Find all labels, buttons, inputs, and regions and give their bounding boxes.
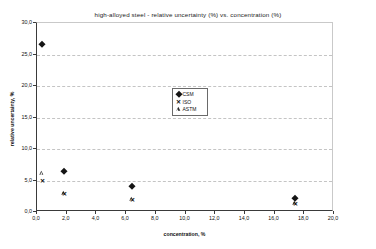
y-tick-label: 25,0 xyxy=(0,51,32,57)
chart-container: high-alloyed steel - relative uncertaint… xyxy=(0,0,376,249)
x-tick-label: 20,0 xyxy=(328,215,339,221)
x-tick-mark xyxy=(274,211,275,214)
x-tick-label: 10,0 xyxy=(179,215,190,221)
legend-label: CSM xyxy=(182,91,194,97)
x-axis-title: concentration, % xyxy=(36,231,333,237)
x-tick-mark xyxy=(333,211,334,214)
marker-cross-icon: ✕ xyxy=(130,197,135,203)
y-tick-label: 5,0 xyxy=(0,177,32,183)
y-tick-mark xyxy=(33,180,36,181)
marker-diamond-icon xyxy=(129,182,135,188)
x-tick-label: 2,0 xyxy=(62,215,70,221)
gridline xyxy=(37,118,332,119)
y-tick-mark xyxy=(33,117,36,118)
marker-diamond-icon xyxy=(39,41,45,47)
y-tick-label: 15,0 xyxy=(0,114,32,120)
x-tick-mark xyxy=(95,211,96,214)
marker-diamond-icon xyxy=(61,168,67,174)
y-tick-label: 10,0 xyxy=(0,145,32,151)
x-tick-mark xyxy=(185,211,186,214)
x-tick-label: 8,0 xyxy=(151,215,159,221)
marker-triangle-icon xyxy=(39,171,44,176)
legend-symbol: ✕ xyxy=(175,98,182,105)
plot-area: ✕✕✕✕ xyxy=(36,22,333,211)
x-tick-mark xyxy=(66,211,67,214)
chart-title: high-alloyed steel - relative uncertaint… xyxy=(0,11,376,18)
y-tick-mark xyxy=(33,54,36,55)
x-tick-label: 18,0 xyxy=(298,215,309,221)
legend: CSM✕ISOASTM xyxy=(172,88,208,116)
legend-item-astm[interactable]: ASTM xyxy=(175,106,205,114)
marker-cross-icon: ✕ xyxy=(62,191,67,197)
y-tick-label: 20,0 xyxy=(0,82,32,88)
gridline xyxy=(37,149,332,150)
y-tick-mark xyxy=(33,148,36,149)
marker-cross-icon: ✕ xyxy=(176,98,181,104)
legend-symbol xyxy=(175,106,182,113)
x-tick-mark xyxy=(125,211,126,214)
x-tick-label: 16,0 xyxy=(268,215,279,221)
y-tick-mark xyxy=(33,22,36,23)
x-tick-label: 6,0 xyxy=(121,215,129,221)
gridline xyxy=(37,86,332,87)
legend-label: ISO xyxy=(182,99,191,105)
marker-triangle-icon xyxy=(176,107,181,112)
x-tick-mark xyxy=(155,211,156,214)
x-tick-label: 0,0 xyxy=(32,215,40,221)
x-tick-mark xyxy=(214,211,215,214)
legend-item-iso[interactable]: ✕ISO xyxy=(175,98,205,106)
x-tick-mark xyxy=(244,211,245,214)
gridline xyxy=(37,181,332,182)
marker-cross-icon: ✕ xyxy=(40,177,45,183)
x-tick-label: 12,0 xyxy=(209,215,220,221)
x-tick-mark xyxy=(36,211,37,214)
x-tick-label: 4,0 xyxy=(92,215,100,221)
marker-cross-icon: ✕ xyxy=(293,201,298,207)
y-tick-label: 30,0 xyxy=(0,19,32,25)
x-tick-mark xyxy=(303,211,304,214)
legend-label: ASTM xyxy=(182,106,196,112)
x-tick-label: 14,0 xyxy=(239,215,250,221)
gridline xyxy=(37,55,332,56)
y-tick-label: 0,0 xyxy=(0,208,32,214)
y-tick-mark xyxy=(33,85,36,86)
